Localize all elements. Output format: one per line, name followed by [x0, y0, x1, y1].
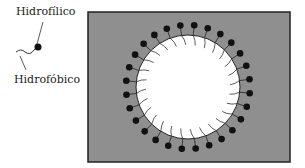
- hydrophilic-head-icon: [177, 22, 184, 29]
- hydrophilic-head-icon: [217, 31, 224, 38]
- hydrophilic-head-icon: [246, 76, 253, 83]
- hydrophilic-head-icon: [229, 127, 236, 134]
- hydrophilic-head-icon: [151, 32, 158, 39]
- hydrophilic-head-icon: [152, 137, 159, 144]
- hydrophilic-head-icon: [132, 51, 139, 58]
- hydrophilic-head-icon: [246, 90, 253, 97]
- hydrophilic-head-icon: [237, 50, 244, 57]
- hydrophilic-head-icon: [204, 25, 211, 32]
- hydrophilic-head-icon: [206, 142, 213, 149]
- hydrophilic-head-icon: [141, 128, 148, 135]
- hydrophilic-head-icon: [191, 22, 198, 29]
- hydrophilic-head-icon: [123, 78, 130, 85]
- hydrophilic-head-icon: [126, 105, 133, 112]
- hydrophilic-head-icon: [140, 40, 147, 47]
- hydrophilic-head-icon: [238, 116, 245, 123]
- hydrophilic-head-icon: [123, 91, 130, 98]
- legend-molecule-icon: [16, 22, 43, 70]
- hydrophilic-head-icon: [133, 117, 140, 124]
- micelle: [123, 22, 253, 152]
- hydrophilic-head-icon: [126, 64, 133, 71]
- hydrophilic-head-icon: [164, 25, 171, 32]
- hydrophilic-head-icon: [228, 39, 235, 46]
- hydrophilic-head-icon: [218, 136, 225, 143]
- hydrophilic-head-icon: [243, 63, 250, 70]
- hydrophilic-head-icon: [243, 103, 250, 110]
- micelle-diagram: [0, 0, 305, 168]
- hydrophilic-head-icon: [192, 145, 199, 152]
- hydrophilic-head-icon: [165, 142, 172, 149]
- hydrophilic-head-icon: [179, 145, 186, 152]
